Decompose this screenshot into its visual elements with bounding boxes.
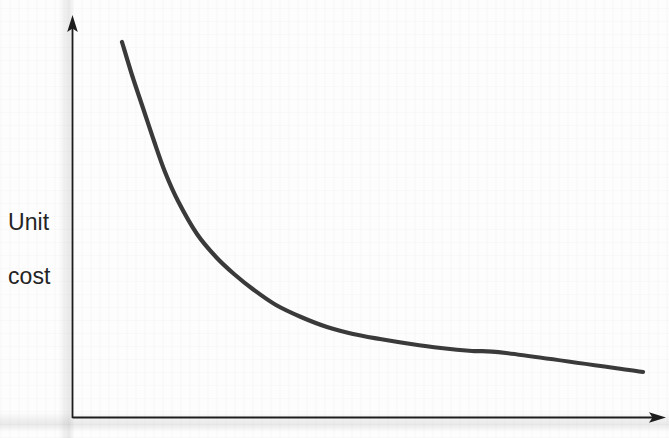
unit-cost-chart xyxy=(0,0,669,438)
y-axis-label-line-2: cost xyxy=(8,263,66,290)
unit-cost-curve xyxy=(122,42,643,372)
figure-container: Unit cost xyxy=(0,0,669,438)
y-axis-label: Unit cost xyxy=(8,182,66,317)
y-axis-label-line-1: Unit xyxy=(8,209,66,236)
